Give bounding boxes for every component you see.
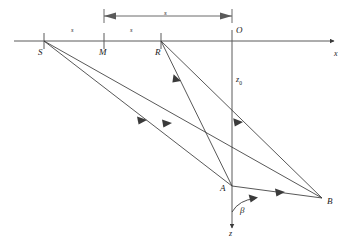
point-label-b: B: [327, 197, 333, 206]
angle-label-beta: β: [240, 206, 244, 215]
ray-arrow-s-to-a-icon: [137, 116, 147, 124]
dimension-arrow-right-icon: [220, 13, 232, 20]
dimension-label-mo: s: [164, 10, 167, 17]
ray-s-to-b: [44, 41, 322, 198]
x-axis-label: x: [334, 50, 338, 58]
ray-s-to-a: [44, 41, 232, 186]
point-label-s: S: [38, 48, 43, 57]
dimension-arrow-left-icon: [104, 13, 116, 20]
dimension-line-group: [104, 9, 232, 23]
point-label-o: O: [236, 26, 243, 35]
depth-label-z0: z0: [236, 76, 242, 86]
z-axis-label: z: [229, 230, 232, 238]
angle-arc-arrow-icon: [249, 195, 258, 203]
segment-label-mr: s: [130, 27, 133, 34]
point-label-r: R: [155, 48, 161, 57]
point-label-a: A: [220, 184, 226, 193]
ray-path-group: [44, 41, 322, 198]
figure-canvas: [0, 0, 344, 243]
segment-label-sm: s: [71, 27, 74, 34]
ray-arrow-a-to-b-icon: [275, 189, 285, 197]
depth-label-subscript: 0: [239, 80, 242, 86]
ray-arrow-s-to-b-icon: [162, 120, 172, 128]
ray-r-to-b: [161, 41, 322, 198]
ray-path-geometry-figure: s s s S M R O A B x z z0 β: [0, 0, 344, 243]
point-label-m: M: [99, 48, 107, 57]
